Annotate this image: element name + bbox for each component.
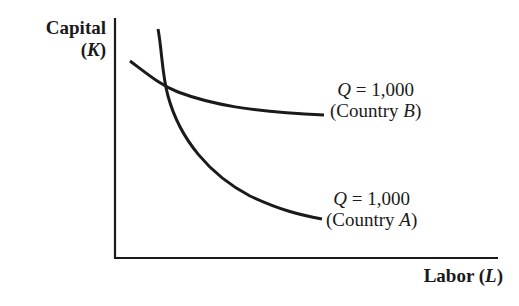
label-country-a-quantity: Q = 1,000 [326, 188, 417, 209]
y-axis-label-main: Capital [0, 17, 106, 39]
isoquant-country-b [130, 61, 324, 115]
isoquant-country-a [158, 29, 322, 219]
x-axis-label: Labor (L) [424, 266, 503, 285]
y-axis-label: Capital (K) [0, 17, 106, 61]
label-country-a: Q = 1,000 (Country A) [326, 188, 417, 230]
label-country-b-quantity: Q = 1,000 [330, 79, 421, 100]
label-country-b: Q = 1,000 (Country B) [330, 79, 421, 121]
y-axis-label-symbol: (K) [0, 39, 106, 61]
label-country-a-name: (Country A) [326, 209, 417, 230]
label-country-b-name: (Country B) [330, 100, 421, 121]
